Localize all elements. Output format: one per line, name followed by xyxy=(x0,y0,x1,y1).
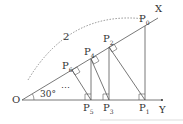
label-p0: P0 xyxy=(139,14,150,26)
label-arc: 2 xyxy=(63,32,69,42)
label-x: X xyxy=(155,4,162,14)
label-ellipsis: ⋯ xyxy=(61,84,70,93)
label-p4: P4 xyxy=(84,47,95,59)
bottom-divider xyxy=(100,119,183,121)
label-p3: P3 xyxy=(103,103,114,115)
label-origin: O xyxy=(12,95,20,105)
label-angle: 30° xyxy=(40,90,56,99)
label-p6: P6 xyxy=(62,61,73,73)
label-p1: P1 xyxy=(139,103,150,115)
label-y: Y xyxy=(159,105,166,115)
label-p5: P5 xyxy=(83,103,94,115)
label-p2: P2 xyxy=(103,34,114,46)
